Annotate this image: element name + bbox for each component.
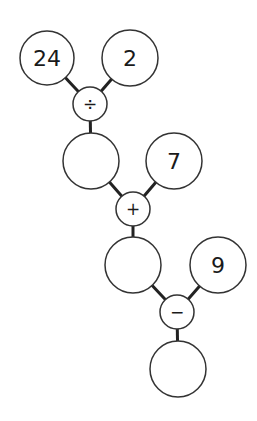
operator-node-add: + xyxy=(116,192,150,226)
number-node-2: 2 xyxy=(102,30,158,86)
result-node-2[interactable] xyxy=(105,237,161,293)
node-label: 9 xyxy=(211,253,225,278)
node-label: 2 xyxy=(123,46,137,71)
number-node-7: 7 xyxy=(146,133,202,189)
minus-icon: − xyxy=(170,302,184,322)
result-node-1[interactable] xyxy=(63,133,119,189)
plus-icon: + xyxy=(126,199,140,219)
calculation-tree-diagram: 24 2 ÷ 7 + 9 − xyxy=(0,0,257,421)
result-node-3[interactable] xyxy=(150,341,206,397)
node-label: 7 xyxy=(167,149,181,174)
operator-node-divide: ÷ xyxy=(73,87,107,121)
number-node-24: 24 xyxy=(20,31,74,85)
number-node-9: 9 xyxy=(190,237,246,293)
operator-node-subtract: − xyxy=(160,295,194,329)
node-label: 24 xyxy=(33,46,61,71)
divide-icon: ÷ xyxy=(83,94,97,114)
